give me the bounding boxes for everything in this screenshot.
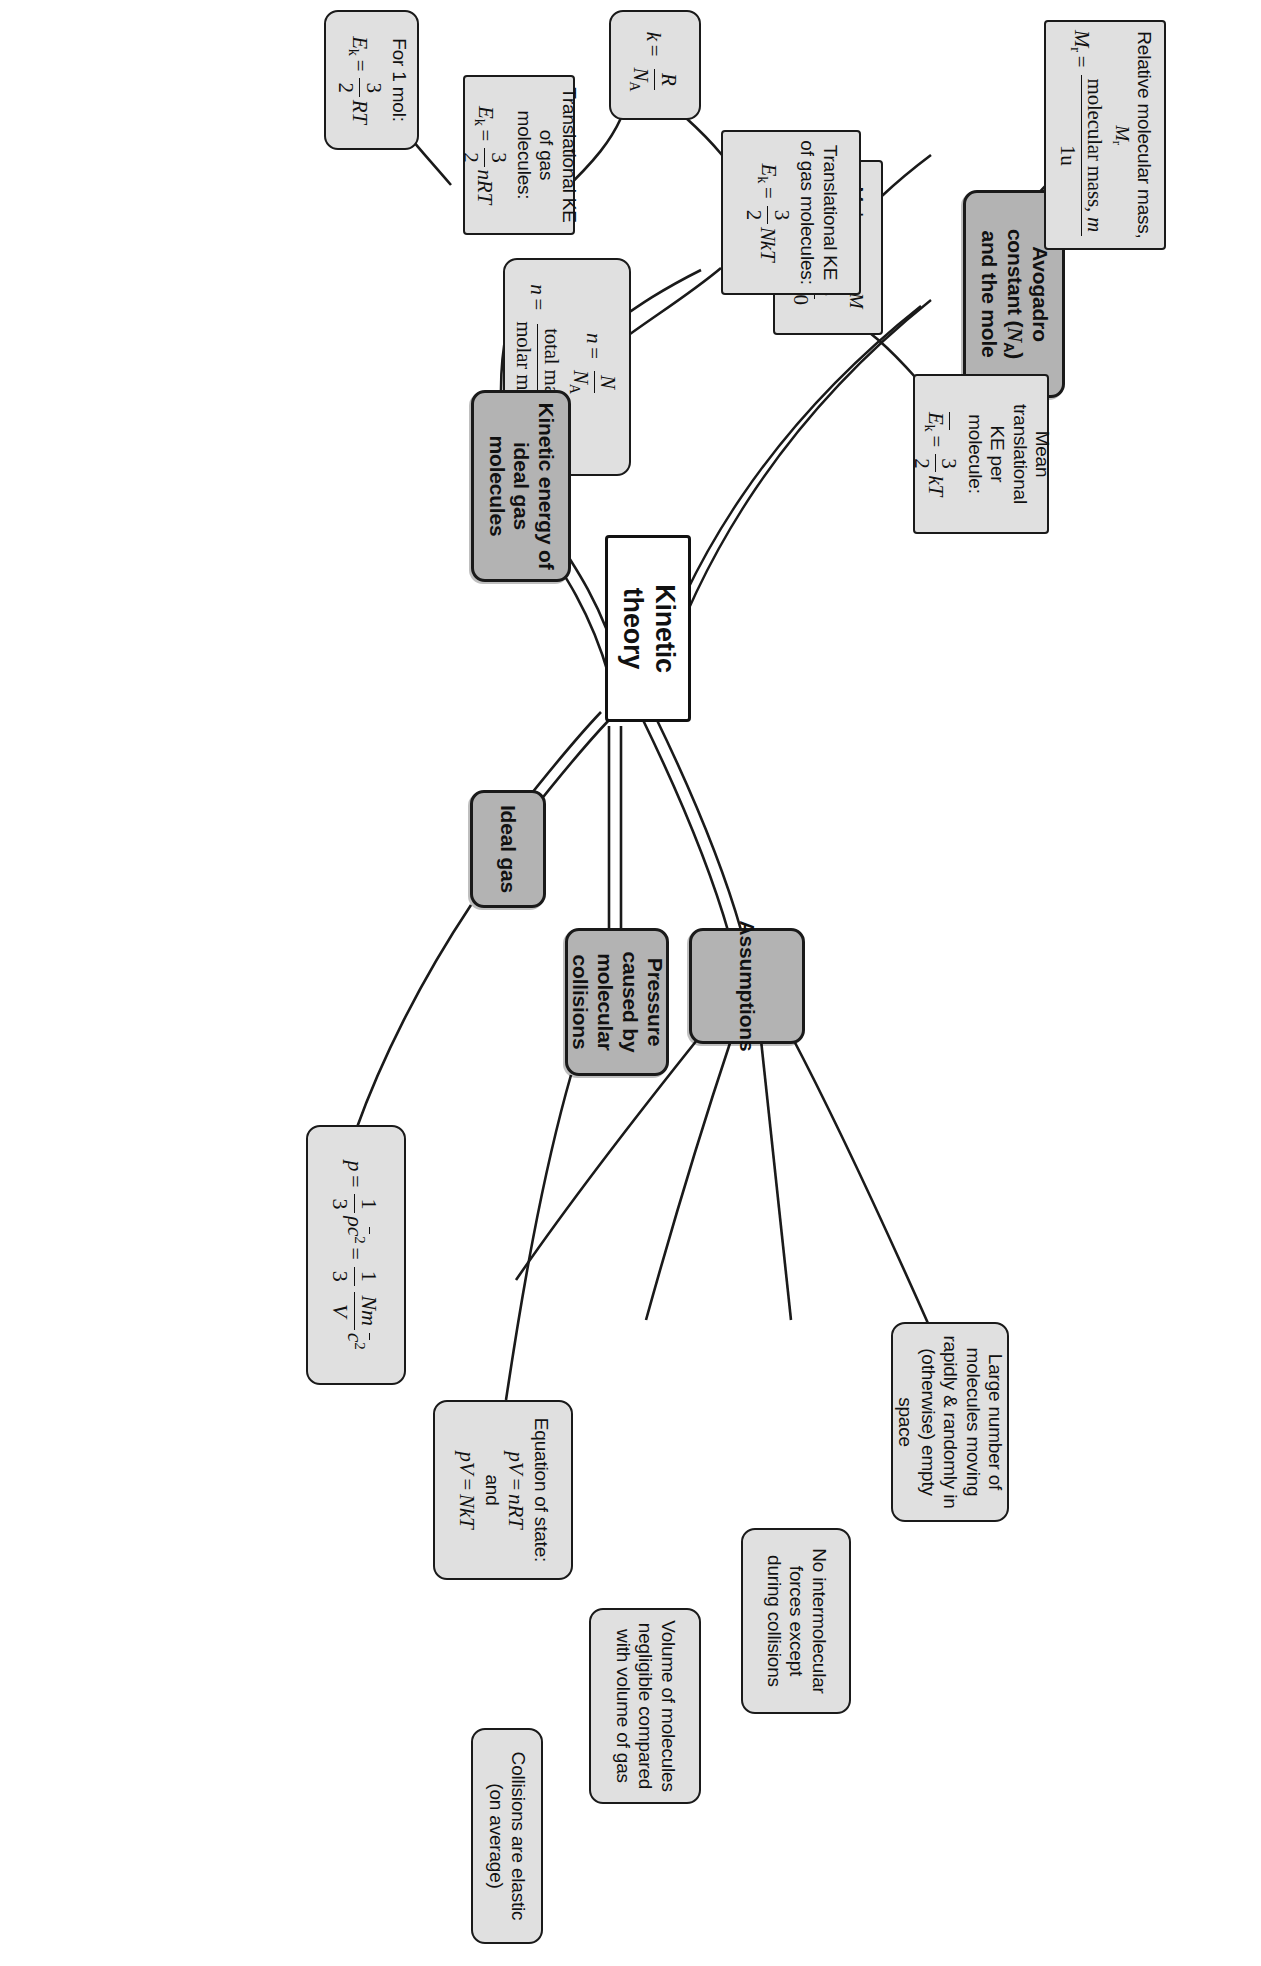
- translational-ke-nrt-title: Translational KEof gas molecules:: [513, 85, 580, 225]
- mean-translational-ke-title: Mean translationalKE per molecule:: [963, 384, 1053, 524]
- branch-kinetic-energy[interactable]: Kinetic energy of ideal gas molecules: [471, 390, 571, 582]
- node-assumption-elastic[interactable]: Collisions are elastic (on average): [471, 1728, 543, 1944]
- node-for-one-mol[interactable]: For 1 mol: Ek= 32 RT: [324, 10, 419, 150]
- branch-ideal-gas[interactable]: Ideal gas: [470, 790, 546, 908]
- mean-translational-ke-equation: Ek= 32 kT: [909, 412, 962, 496]
- for-one-mol-equation: Ek= 32 RT: [333, 36, 386, 124]
- node-assumption-large-number[interactable]: Large number of molecules moving rapidly…: [891, 1322, 1009, 1522]
- central-node-kinetic-theory[interactable]: Kinetic theory: [605, 535, 691, 722]
- branch-pressure-collisions-label: Pressure caused bymolecular collisions: [567, 939, 666, 1065]
- branch-assumptions[interactable]: Assumptions: [689, 928, 805, 1044]
- branch-avogadro-label: Avogadro constant (NA)and the mole: [976, 201, 1052, 387]
- node-pressure-equation[interactable]: p= 13 ρc2= 13 NmV c2: [306, 1125, 406, 1385]
- boltzmann-constant-equation: k= RNA: [627, 32, 681, 99]
- node-relative-molecular-mass[interactable]: Relative molecular mass, Mr Mr= molecula…: [1044, 20, 1166, 250]
- branch-assumptions-label: Assumptions: [735, 921, 760, 1052]
- node-assumption-no-forces[interactable]: No intermolecular forces except during c…: [741, 1528, 851, 1714]
- pressure-equation-formula: p= 13 ρc2= 13 NmV c2: [328, 1160, 383, 1349]
- branch-kinetic-energy-label: Kinetic energy of ideal gas molecules: [484, 401, 558, 571]
- equation-of-state-title: Equation of state:: [530, 1418, 552, 1562]
- translational-ke-nkt-title: Translational KEof gas molecules:: [796, 140, 841, 284]
- node-translational-ke-nrt[interactable]: Translational KEof gas molecules: Ek= 32…: [463, 75, 575, 235]
- node-boltzmann-constant[interactable]: k= RNA: [609, 10, 701, 120]
- equation-of-state-and: and: [481, 1474, 503, 1505]
- node-equation-of-state[interactable]: Equation of state: pV=nRT and pV=NkT: [433, 1400, 573, 1580]
- translational-ke-nkt-equation: Ek= 32 NkT: [741, 164, 794, 262]
- for-one-mol-title: For 1 mol:: [388, 38, 410, 122]
- amount-of-substance-equation-1: n= NNA: [566, 333, 620, 401]
- equation-of-state-eq2: pV=NkT: [454, 1451, 479, 1528]
- relative-molecular-mass-equation: Mr= molecular mass, m1u: [1055, 30, 1108, 239]
- mindmap-canvas: Kinetic theory Avogadro constant (NA)and…: [0, 0, 1261, 1966]
- equation-of-state-eq1: pV=nRT: [503, 1451, 528, 1528]
- node-assumption-volume[interactable]: Volume of molecules negligible compared …: [589, 1608, 701, 1804]
- assumption-elastic-text: Collisions are elastic (on average): [485, 1738, 530, 1934]
- node-translational-ke-nkt[interactable]: Translational KEof gas molecules: Ek= 32…: [721, 130, 861, 295]
- assumption-large-number-text: Large number of molecules moving rapidly…: [894, 1332, 1006, 1512]
- branch-ideal-gas-label: Ideal gas: [496, 805, 521, 893]
- node-mean-translational-ke[interactable]: Mean translationalKE per molecule: Ek= 3…: [913, 374, 1049, 534]
- relative-molecular-mass-title: Relative molecular mass, Mr: [1109, 30, 1155, 240]
- branch-pressure-collisions[interactable]: Pressure caused bymolecular collisions: [565, 928, 669, 1076]
- translational-ke-nrt-equation: Ek= 32 nRT: [458, 106, 511, 204]
- central-node-label: Kinetic theory: [616, 546, 680, 711]
- assumption-no-forces-text: No intermolecular forces except during c…: [762, 1538, 829, 1704]
- assumption-volume-text: Volume of molecules negligible compared …: [611, 1618, 678, 1794]
